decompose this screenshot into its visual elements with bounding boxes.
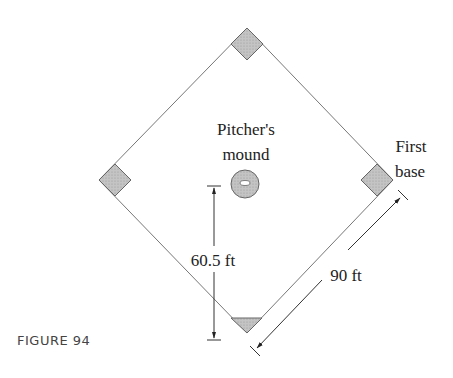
baseball-diamond-diagram: Pitcher's mound First base 60.5 ft 90 ft… — [0, 0, 453, 378]
mound-label-line2: mound — [222, 145, 270, 164]
first-base — [361, 164, 393, 196]
first-base-label-line2: base — [395, 162, 425, 181]
first-base-label-line1: First — [395, 137, 426, 156]
pitch-distance-label: 60.5 ft — [191, 251, 236, 270]
base-distance-label: 90 ft — [330, 266, 362, 285]
home-plate — [231, 318, 262, 333]
second-base — [231, 28, 263, 60]
base-distance-dimension — [250, 190, 408, 356]
figure-caption: FIGURE 94 — [17, 333, 90, 348]
pitchers-rubber — [240, 181, 250, 186]
third-base — [99, 164, 131, 196]
mound-label-line1: Pitcher's — [217, 120, 275, 139]
